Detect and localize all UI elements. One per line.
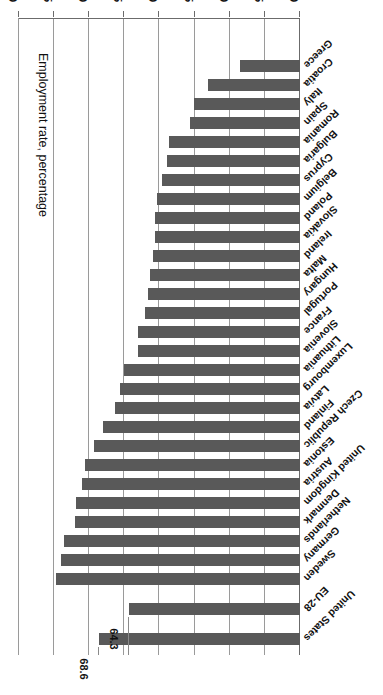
- bar-row: [19, 494, 300, 513]
- bar-netherlands: [64, 536, 300, 548]
- bar-czech-republic: [94, 441, 300, 453]
- bar-row: [19, 532, 300, 551]
- bar-row: [19, 323, 300, 342]
- bar-portugal: [145, 308, 300, 320]
- bar-poland: [155, 213, 300, 225]
- data-label: 64.3: [109, 628, 121, 649]
- axis-tick-75: [53, 11, 54, 17]
- bar-row: [19, 285, 300, 304]
- axis-title: Employment rate, percentage: [36, 53, 50, 217]
- bar-row: [19, 209, 300, 228]
- bar-row: [19, 171, 300, 190]
- bar-slovakia: [155, 232, 300, 244]
- bar-greece: [240, 61, 300, 73]
- bar-slovenia: [138, 346, 300, 358]
- axis-tick-40: [299, 11, 300, 17]
- leader-line: [128, 617, 129, 655]
- bar-row: [19, 418, 300, 437]
- axis-tick-label-70: 70: [77, 0, 89, 9]
- axis-tick-label-50: 50: [218, 0, 230, 9]
- axis-tick-label-55: 55: [183, 0, 195, 9]
- axis-baseline: [19, 18, 300, 19]
- axis-tick-45: [264, 11, 265, 17]
- bar-row: [19, 114, 300, 133]
- bar-spain: [190, 118, 300, 130]
- bar-sweden: [56, 574, 300, 586]
- bar-row: [19, 570, 300, 589]
- bar-hungary: [148, 289, 300, 301]
- axis-tick-label-65: 65: [112, 0, 124, 9]
- bar-austria: [82, 479, 300, 491]
- bar-row: [19, 57, 300, 76]
- chart-canvas: 807570656055504540United States68.6EU-28…: [0, 0, 383, 695]
- bar-finland: [103, 422, 300, 434]
- bar-germany: [61, 555, 300, 567]
- plot-area: 807570656055504540United States68.6EU-28…: [19, 18, 300, 655]
- axis-tick-65: [123, 11, 124, 17]
- bar-malta: [150, 270, 300, 282]
- bar-row: [19, 266, 300, 285]
- bar-italy: [194, 99, 300, 111]
- bar-estonia: [85, 460, 300, 472]
- bar-romania: [169, 137, 300, 149]
- axis-tick-60: [159, 11, 160, 17]
- bar-row: [19, 152, 300, 171]
- axis-tick-label-45: 45: [253, 0, 265, 9]
- bar-row: [19, 475, 300, 494]
- bar-latvia: [115, 403, 300, 415]
- axis-tick-50: [229, 11, 230, 17]
- bar-bulgaria: [167, 156, 300, 168]
- bar-row: [19, 133, 300, 152]
- bar-row: [19, 342, 300, 361]
- bar-row: [19, 437, 300, 456]
- bar-ireland: [153, 251, 300, 263]
- bar-row: [19, 228, 300, 247]
- bar-row: [19, 380, 300, 399]
- axis-tick-label-80: 80: [7, 0, 19, 9]
- bar-denmark: [75, 517, 300, 529]
- bar-lithuania: [124, 365, 300, 377]
- axis-tick-80: [18, 11, 19, 17]
- bar-row: [19, 304, 300, 323]
- bar-row: [19, 513, 300, 532]
- bar-row: [19, 190, 300, 209]
- bar-row: [19, 361, 300, 380]
- bar-row: [19, 630, 300, 649]
- bar-row: [19, 95, 300, 114]
- axis-tick-label-60: 60: [148, 0, 160, 9]
- bar-belgium: [157, 194, 300, 206]
- bar-row: [19, 600, 300, 619]
- axis-tick-55: [194, 11, 195, 17]
- bar-luxembourg: [120, 384, 300, 396]
- rotated-chart-stage: 807570656055504540United States68.6EU-28…: [0, 0, 383, 695]
- bar-united-kingdom: [76, 498, 300, 510]
- data-label: 68.6: [78, 658, 90, 679]
- bar-row: [19, 76, 300, 95]
- bar-croatia: [208, 80, 300, 92]
- bar-france: [138, 327, 300, 339]
- bar-eu-28: [129, 604, 300, 616]
- axis-tick-label-75: 75: [42, 0, 54, 9]
- bar-row: [19, 247, 300, 266]
- axis-tick-label-40: 40: [288, 0, 300, 9]
- leader-line: [98, 647, 99, 655]
- axis-tick-70: [88, 11, 89, 17]
- bar-row: [19, 399, 300, 418]
- bar-row: [19, 551, 300, 570]
- bar-cyprus: [162, 175, 300, 187]
- bar-row: [19, 456, 300, 475]
